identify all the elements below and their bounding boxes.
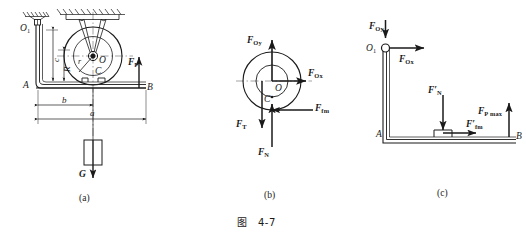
- force-label-fin-b: Ffm: [315, 104, 329, 114]
- force-label-fox-c: FOx: [399, 55, 414, 65]
- force-label-fn-prime-c: F′N: [428, 86, 442, 96]
- subfigure-caption-b: (b): [264, 190, 275, 200]
- force-label-fox-b: FOx: [308, 69, 323, 79]
- subfigure-caption-a: (a): [79, 193, 90, 203]
- label-radius-r-a: r: [78, 58, 81, 66]
- label-point-b-a: B: [147, 83, 153, 93]
- panel-c-pivot-o1: [382, 44, 390, 52]
- force-label-fpmax-c: FP max: [478, 107, 502, 117]
- figure-number-caption: 图 4-7: [237, 214, 276, 229]
- dimension-label-a: a: [90, 108, 95, 118]
- ceiling-support-wheel: [57, 9, 125, 15]
- dimension-label-b: b: [62, 95, 67, 105]
- hanging-load-group: [84, 88, 102, 178]
- force-label-ft-b: FT: [236, 120, 247, 130]
- label-contact-c-b: C: [264, 95, 270, 105]
- force-label-fp-a: FP: [128, 58, 138, 68]
- figure-drawing: [0, 0, 526, 245]
- force-label-foy-c: FOy: [369, 22, 384, 32]
- force-label-fin-prime-c: F′fm: [466, 120, 483, 130]
- label-point-a-c: A: [376, 130, 382, 140]
- dimension-label-c: c: [51, 58, 61, 62]
- panel-b-drawing: [236, 40, 313, 147]
- label-center-o-b: O: [275, 84, 282, 94]
- label-point-b-c: B: [516, 132, 522, 142]
- label-point-a-a: A: [23, 81, 29, 91]
- force-label-g-a: G: [79, 170, 86, 180]
- panel-a-drawing: [23, 9, 146, 178]
- panel-b-point-c: [271, 96, 274, 99]
- label-pivot-o1-c: O1: [366, 44, 376, 54]
- subfigure-caption-c: (c): [437, 188, 448, 198]
- dimension-c: [46, 30, 58, 81]
- label-contact-point-c-a: C: [95, 67, 101, 77]
- label-pivot-o1-a: O1: [20, 24, 30, 34]
- panel-c-drawing: [382, 20, 517, 143]
- wheel-contact-pads: [82, 78, 105, 82]
- force-label-fn-b: FN: [258, 148, 269, 158]
- label-wheel-center-o-a: O: [99, 56, 106, 66]
- force-label-foy-b: FOy: [247, 36, 262, 46]
- dimension-label-R: R: [62, 67, 72, 73]
- figure-container: O1 O C r A B c R b a FP G FOy FOx O C FT…: [0, 0, 526, 245]
